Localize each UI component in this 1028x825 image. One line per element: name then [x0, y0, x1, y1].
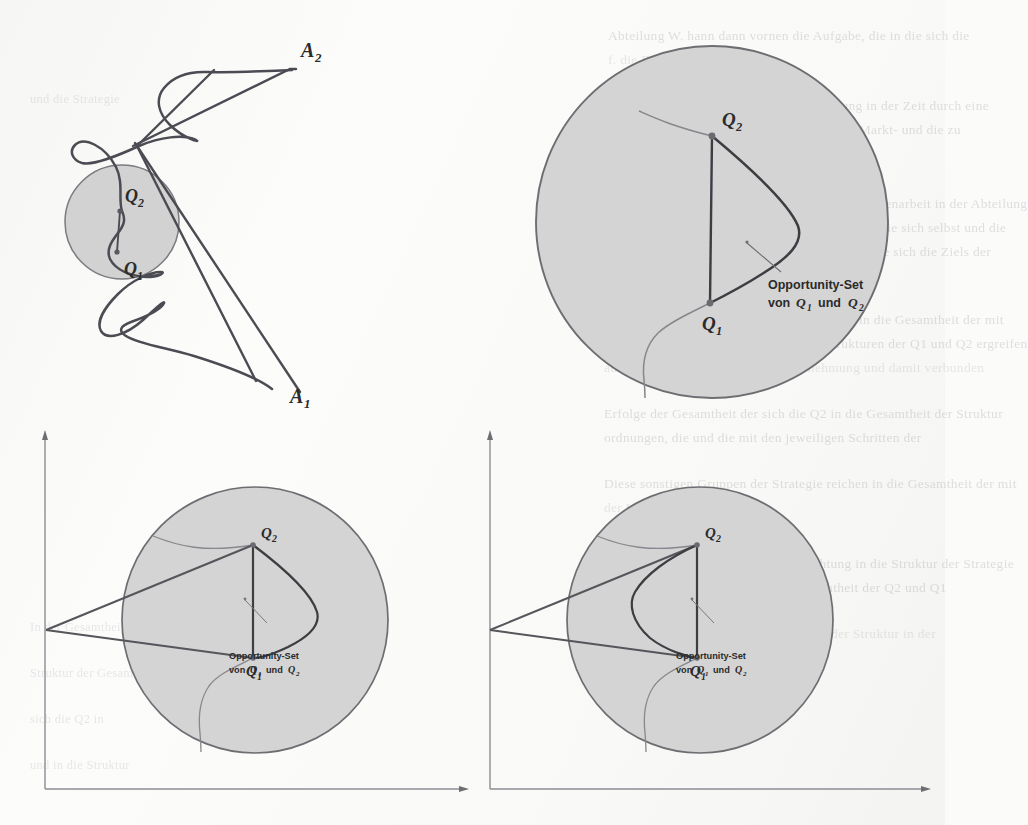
annotation-opportunity-set-bottom-left: Opportunity-Set — [229, 651, 299, 661]
annotation-leader-dot-top-right — [745, 240, 748, 243]
annotation-von-top-right: von — [768, 296, 790, 310]
annotation-leader-dot-bottom-right — [691, 598, 694, 601]
annotation-opportunity-set-bottom-right: Opportunity-Set — [676, 651, 746, 661]
point-q1-marker — [114, 249, 119, 254]
annotation-q1-bottom-left: Q — [250, 664, 257, 675]
ray-to-a1 — [135, 143, 300, 392]
label-q2-panel4-sub: 2 — [715, 533, 721, 544]
panel-top-right — [536, 46, 888, 398]
annotation-leader-dot-bottom-left — [244, 598, 247, 601]
ray-to-a2 — [133, 69, 296, 146]
y-axis-arrowhead-bottom-left — [42, 430, 48, 440]
annotation-und-top-right: und — [818, 296, 841, 310]
label-q2-panel1: Q — [125, 186, 138, 206]
point-q2-marker — [117, 208, 122, 213]
x-axis-arrowhead-bottom-left — [459, 786, 469, 792]
annotation-q1-sub-bottom-right: 1 — [705, 670, 709, 678]
annotation-q2-bottom-right: Q — [735, 664, 742, 675]
label-a1-sub: 1 — [304, 396, 311, 411]
panel-top-left — [65, 69, 300, 392]
point-q2-marker-bottom-left — [250, 542, 256, 548]
label-q1-panel2: Q — [702, 313, 716, 334]
label-q1-panel1-sub: 1 — [137, 269, 143, 283]
panel-bottom-left-figure — [46, 487, 388, 753]
annotation-von-bottom-left: von — [229, 665, 246, 675]
label-q2-panel1-sub: 2 — [137, 196, 144, 210]
label-a2-sub: 2 — [314, 50, 322, 65]
point-q1-marker-top-right — [707, 300, 714, 307]
annotation-opportunity-set-top-right: Opportunity-Set — [768, 278, 864, 292]
annotation-q2-sub-top-right: 2 — [858, 303, 864, 313]
annotation-q1-sub-bottom-left: 1 — [258, 670, 262, 678]
label-q2-panel3-sub: 2 — [271, 533, 277, 544]
x-axis-arrowhead-bottom-right — [921, 786, 931, 792]
y-axis-arrowhead-bottom-right — [487, 430, 493, 440]
annotation-q2-top-right: Q — [848, 295, 858, 310]
annotation-q2-bottom-left: Q — [288, 664, 295, 675]
annotation-und-bottom-left: und — [266, 665, 283, 675]
annotation-q1-bottom-right: Q — [697, 664, 704, 675]
annotation-q1-sub-top-right: 1 — [807, 303, 812, 313]
annotation-q2-sub-bottom-left: 2 — [295, 670, 300, 678]
annotation-und-bottom-right: und — [713, 665, 730, 675]
label-q2-panel2: Q — [722, 109, 736, 130]
label-q1-panel1: Q — [124, 259, 137, 279]
annotation-von-bottom-right: von — [676, 665, 693, 675]
point-q2-marker-top-right — [709, 133, 716, 140]
panel-bottom-right-figure — [490, 487, 833, 753]
label-a2: A — [299, 39, 314, 61]
label-q2-panel3: Q — [261, 525, 272, 541]
annotation-q2-sub-bottom-right: 2 — [742, 670, 747, 678]
label-q2-panel4: Q — [705, 525, 716, 541]
opportunity-circle-bottom-left — [122, 487, 388, 753]
annotation-q1-top-right: Q — [796, 295, 806, 310]
point-q2-marker-bottom-right — [694, 542, 700, 548]
label-q1-panel2-sub: 1 — [716, 324, 722, 338]
opportunity-circle-bottom-right — [567, 487, 833, 753]
label-q2-panel2-sub: 2 — [735, 120, 742, 134]
label-a1: A — [288, 385, 303, 407]
